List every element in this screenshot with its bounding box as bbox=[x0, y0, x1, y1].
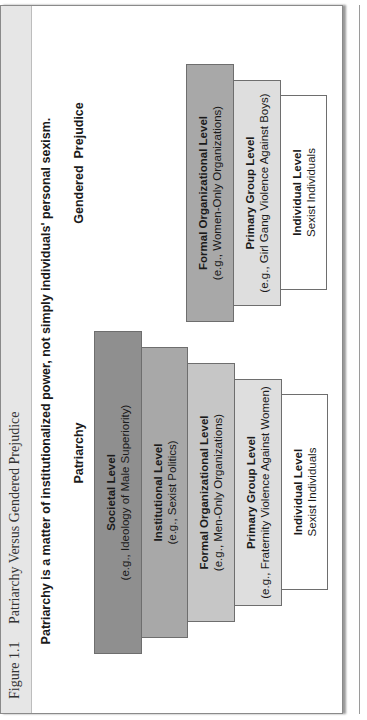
figure-title: Patriarchy Versus Gendered Prejudice bbox=[7, 412, 22, 624]
level-label: Individual Level bbox=[290, 149, 304, 235]
level-label: Primary Group Level bbox=[243, 136, 257, 249]
patriarchy-formal-organizational-level: Formal Organizational Level (e.g., Men-O… bbox=[187, 363, 235, 622]
level-example: (e.g., Sexist Politics) bbox=[165, 440, 179, 544]
gp-formal-organizational-level: Formal Organizational Level (e.g., Women… bbox=[186, 64, 234, 322]
figure-page: Figure 1.1 Patriarchy Versus Gendered Pr… bbox=[0, 0, 367, 720]
figure-frame: Figure 1.1 Patriarchy Versus Gendered Pr… bbox=[0, 5, 343, 714]
gendered-prejudice-title: Gendered Prejudice bbox=[72, 63, 86, 263]
level-label: Formal Organizational Level bbox=[196, 116, 210, 270]
patriarchy-title: Patriarchy bbox=[72, 343, 86, 563]
figure-caption: Figure 1.1 Patriarchy Versus Gendered Pr… bbox=[7, 412, 23, 699]
level-label: Primary Group Level bbox=[244, 436, 258, 549]
figure-headline: Patriarchy is a matter of institutionali… bbox=[39, 91, 53, 671]
patriarchy-primary-group-level: Primary Group Level (e.g., Fraternity Vi… bbox=[234, 379, 282, 606]
patriarchy-individual-level: Individual Level Sexist Individuals bbox=[281, 394, 328, 590]
caption-strip: Figure 1.1 Patriarchy Versus Gendered Pr… bbox=[1, 6, 32, 713]
level-example: (e.g., Women-Only Organizations) bbox=[210, 106, 224, 280]
level-example: (e.g., Men-Only Organizations) bbox=[211, 414, 225, 571]
gp-individual-level: Individual Level Sexist Individuals bbox=[280, 95, 327, 290]
level-example: Sexist Individuals bbox=[304, 148, 318, 237]
level-label: Societal Level bbox=[104, 454, 118, 531]
patriarchy-institutional-level: Institutional Level (e.g., Sexist Politi… bbox=[141, 347, 188, 638]
figure-number: Figure 1.1 bbox=[7, 641, 22, 699]
level-example: Sexist Individuals bbox=[305, 448, 319, 537]
gp-primary-group-level: Primary Group Level (e.g., Girl Gang Vio… bbox=[233, 80, 281, 306]
level-example: (e.g., Girl Gang Violence Against Boys) bbox=[257, 93, 271, 292]
level-example: (e.g., Fraternity Violence Against Women… bbox=[258, 386, 272, 598]
page-edge-rule bbox=[359, 5, 360, 714]
level-label: Formal Organizational Level bbox=[197, 416, 211, 570]
level-label: Individual Level bbox=[291, 449, 305, 535]
patriarchy-societal-level: Societal Level (e.g., Ideology of Male S… bbox=[94, 331, 142, 654]
level-label: Institutional Level bbox=[151, 444, 165, 542]
level-example: (e.g., Ideology of Male Superiority) bbox=[118, 405, 132, 581]
